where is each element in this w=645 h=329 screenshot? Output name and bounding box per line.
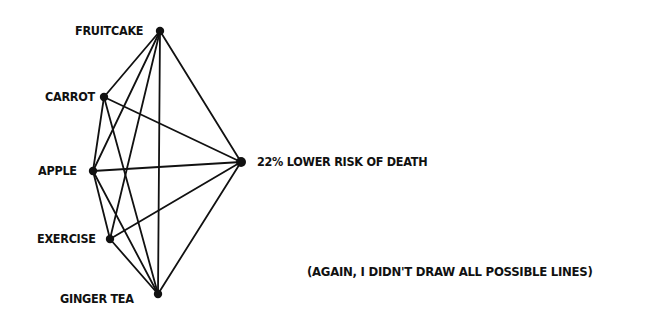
label-ginger-tea: GINGER TEA: [60, 291, 134, 306]
label-fruitcake: FRUITCAKE: [75, 23, 143, 38]
edge-ginger_tea-death: [158, 162, 241, 294]
node-carrot: [100, 93, 108, 101]
edges: [93, 31, 241, 294]
node-apple: [89, 167, 97, 175]
label-apple: APPLE: [38, 163, 77, 178]
label-lower-risk-of-death: 22% LOWER RISK OF DEATH: [257, 154, 427, 169]
edge-carrot-ginger_tea: [104, 97, 158, 294]
edge-fruitcake-ginger_tea: [158, 31, 160, 294]
edge-apple-death: [93, 162, 241, 171]
label-carrot: CARROT: [45, 89, 95, 104]
node-fruitcake: [156, 27, 164, 35]
edge-apple-ginger_tea: [93, 171, 158, 294]
edge-apple-exercise: [93, 171, 110, 239]
edge-exercise-death: [110, 162, 241, 239]
label-exercise: EXERCISE: [37, 231, 96, 246]
node-death: [236, 157, 246, 167]
node-ginger_tea: [154, 290, 162, 298]
node-exercise: [106, 235, 114, 243]
note-text: (AGAIN, I DIDN'T DRAW ALL POSSIBLE LINES…: [307, 264, 593, 279]
